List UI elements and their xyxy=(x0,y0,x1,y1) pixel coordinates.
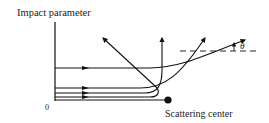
scattering-diagram: Impact parameter 0 Scattering center θ xyxy=(0,0,269,123)
theta-label: θ xyxy=(240,41,245,51)
axis-label: Impact parameter xyxy=(17,7,91,18)
incoming-arrow xyxy=(82,66,89,70)
incoming-arrow xyxy=(82,91,89,95)
incoming-arrow xyxy=(82,95,89,99)
scattering-center-dot xyxy=(164,96,171,103)
origin-label: 0 xyxy=(45,103,49,112)
incoming-arrow xyxy=(82,86,89,90)
scattering-center-label: Scattering center xyxy=(165,108,233,119)
trajectory-large-impact xyxy=(55,40,245,68)
trajectory-small-impact xyxy=(55,38,162,93)
